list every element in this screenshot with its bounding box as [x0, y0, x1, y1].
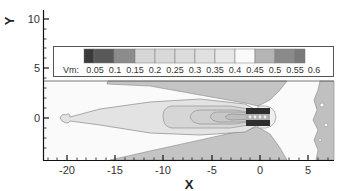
y-tick-5: 5 — [34, 62, 40, 74]
legend-swatch — [175, 49, 195, 63]
x-tick-neg10: -10 — [155, 164, 171, 176]
legend-level-label: 0.6 — [308, 65, 321, 75]
legend-swatch — [235, 49, 255, 63]
legend-level-label: 0.45 — [246, 65, 264, 75]
x-tick-neg15: -15 — [107, 164, 123, 176]
legend-level-label: 0.2 — [149, 65, 162, 75]
contour-field — [44, 81, 334, 160]
legend-level-label: 0.35 — [206, 65, 224, 75]
legend-title: Vm: — [63, 65, 79, 75]
legend-level-label: 0.55 — [286, 65, 304, 75]
legend-swatch — [84, 49, 94, 63]
color-legend: Vm: 0.050.10.150.20.250.30.350.40.450.50… — [54, 47, 334, 77]
legend-level-label: 0.05 — [86, 65, 104, 75]
y-axis-title: Y — [2, 16, 17, 25]
legend-swatch — [295, 49, 305, 63]
y-tick-0: 0 — [34, 112, 40, 124]
x-tick-0: 0 — [257, 164, 263, 176]
contour-chart: 10 5 0 Y -20 -15 - — [0, 0, 344, 191]
legend-swatch — [114, 49, 135, 63]
legend-level-label: 0.5 — [269, 65, 282, 75]
legend-level-label: 0.4 — [229, 65, 242, 75]
legend-swatch — [195, 49, 215, 63]
legend-swatches — [84, 49, 305, 63]
legend-swatch — [255, 49, 275, 63]
y-tick-10: 10 — [28, 13, 40, 25]
legend-level-label: 0.1 — [109, 65, 122, 75]
x-tick-neg5: -5 — [207, 164, 217, 176]
x-axis-title: X — [185, 177, 194, 191]
x-axis: -20 -15 -10 -5 0 5 X — [43, 155, 334, 191]
x-tick-5: 5 — [305, 164, 311, 176]
legend-swatch — [94, 49, 114, 63]
legend-swatch — [135, 49, 155, 63]
legend-level-label: 0.3 — [189, 65, 202, 75]
legend-swatch — [215, 49, 235, 63]
legend-level-label: 0.15 — [126, 65, 144, 75]
y-axis: 10 5 0 Y — [2, 10, 49, 161]
legend-level-label: 0.25 — [166, 65, 184, 75]
x-tick-neg20: -20 — [59, 164, 75, 176]
legend-swatch — [155, 49, 175, 63]
legend-swatch — [275, 49, 295, 63]
